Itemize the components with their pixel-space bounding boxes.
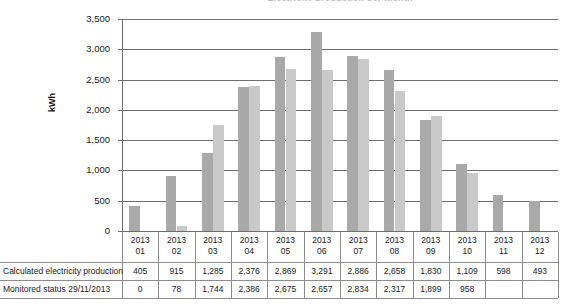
table-cell: 1,744 — [195, 280, 231, 298]
table-cell: 2,886 — [340, 262, 376, 280]
x-label-year: 2013 — [413, 235, 449, 246]
x-axis-label-09: 201309 — [413, 235, 449, 257]
table-cell: 2,658 — [376, 262, 412, 280]
bar-monitored-04 — [249, 86, 260, 231]
bar-calculated-07 — [347, 56, 358, 231]
x-label-year: 2013 — [267, 235, 303, 246]
bar-calculated-11 — [493, 195, 504, 231]
bar-monitored-09 — [431, 116, 442, 231]
table-vertical-rule — [558, 262, 559, 298]
bar-calculated-02 — [166, 176, 177, 231]
x-axis-label-02: 201302 — [158, 235, 194, 257]
x-axis-label-05: 201305 — [267, 235, 303, 257]
table-cell: 1,830 — [413, 262, 449, 280]
x-axis-label-06: 201306 — [304, 235, 340, 257]
x-axis-label-01: 201301 — [122, 235, 158, 257]
table-cell: 3,291 — [304, 262, 340, 280]
bar-calculated-10 — [456, 164, 467, 231]
table-cell: 915 — [158, 262, 194, 280]
bar-monitored-05 — [286, 69, 297, 231]
x-axis-category-band: 2013012013022013032013042013052013062013… — [122, 232, 558, 262]
chart-figure: Electricity production per month kWh 050… — [0, 0, 565, 308]
chart-title: Electricity production per month — [122, 0, 558, 1]
x-label-year: 2013 — [376, 235, 412, 246]
x-axis-label-03: 201303 — [195, 235, 231, 257]
table-row-label: Monitored status 29/11/2013 — [3, 280, 119, 298]
x-label-year: 2013 — [122, 235, 158, 246]
bars-layer — [122, 19, 558, 231]
y-tick-label: 1,500 — [86, 135, 110, 145]
table-cell: 1,109 — [449, 262, 485, 280]
x-label-year: 2013 — [522, 235, 558, 246]
table-cell: 2,834 — [340, 280, 376, 298]
y-tick-label: 3,500 — [86, 14, 110, 24]
x-axis-label-11: 201311 — [485, 235, 521, 257]
bar-calculated-01 — [129, 206, 140, 231]
x-label-month: 02 — [158, 246, 194, 257]
table-cell: 405 — [122, 262, 158, 280]
table-cell: 2,869 — [267, 262, 303, 280]
x-label-month: 12 — [522, 246, 558, 257]
y-tick-label: 3,000 — [86, 44, 110, 54]
x-axis-label-04: 201304 — [231, 235, 267, 257]
x-label-year: 2013 — [158, 235, 194, 246]
bar-calculated-05 — [275, 57, 286, 231]
x-label-month: 11 — [485, 246, 521, 257]
bar-calculated-09 — [420, 120, 431, 231]
x-axis-label-12: 201312 — [522, 235, 558, 257]
x-category-separator — [558, 232, 559, 262]
table-cell: 958 — [449, 280, 485, 298]
table-horizontal-rule — [0, 298, 558, 299]
y-tick-label: 2,000 — [86, 105, 110, 115]
x-label-year: 2013 — [195, 235, 231, 246]
x-label-month: 05 — [267, 246, 303, 257]
table-cell: 2,675 — [267, 280, 303, 298]
table-cell: 1,899 — [413, 280, 449, 298]
x-label-month: 06 — [304, 246, 340, 257]
x-label-month: 10 — [449, 246, 485, 257]
x-label-month: 01 — [122, 246, 158, 257]
x-label-year: 2013 — [449, 235, 485, 246]
x-label-month: 09 — [413, 246, 449, 257]
y-axis-title: kWh — [47, 93, 57, 112]
table-cell: 2,386 — [231, 280, 267, 298]
table-cell: 598 — [485, 262, 521, 280]
table-cell: 1,285 — [195, 262, 231, 280]
bar-monitored-08 — [395, 91, 406, 231]
bar-monitored-07 — [358, 59, 369, 231]
bar-monitored-10 — [467, 173, 478, 231]
x-label-month: 03 — [195, 246, 231, 257]
x-label-year: 2013 — [304, 235, 340, 246]
table-row-label: Calculated electricity production — [3, 262, 119, 280]
bar-monitored-02 — [177, 226, 188, 231]
y-tick-label: 2,500 — [86, 75, 110, 85]
bar-calculated-04 — [238, 87, 249, 231]
bar-calculated-06 — [311, 32, 322, 231]
table-cell: 2,376 — [231, 262, 267, 280]
x-label-year: 2013 — [485, 235, 521, 246]
table-cell: 78 — [158, 280, 194, 298]
bar-calculated-12 — [529, 201, 540, 231]
bar-calculated-03 — [202, 153, 213, 231]
y-tick-label: 0 — [105, 226, 110, 236]
x-label-month: 07 — [340, 246, 376, 257]
x-axis-label-10: 201310 — [449, 235, 485, 257]
x-axis-label-08: 201308 — [376, 235, 412, 257]
bar-monitored-06 — [322, 70, 333, 231]
x-label-month: 04 — [231, 246, 267, 257]
table-cell: 2,317 — [376, 280, 412, 298]
table-cell: 2,657 — [304, 280, 340, 298]
bar-monitored-03 — [213, 125, 224, 231]
x-label-year: 2013 — [231, 235, 267, 246]
x-label-month: 08 — [376, 246, 412, 257]
y-tick-label: 500 — [94, 196, 110, 206]
x-label-year: 2013 — [340, 235, 376, 246]
table-cell: 0 — [122, 280, 158, 298]
y-axis-tick-labels: 05001,0001,5002,0002,5003,0003,500 — [66, 19, 116, 231]
x-axis-label-07: 201307 — [340, 235, 376, 257]
data-table: Calculated electricity production4059151… — [0, 262, 558, 298]
y-tick-label: 1,000 — [86, 165, 110, 175]
table-cell: 493 — [522, 262, 558, 280]
bar-calculated-08 — [384, 70, 395, 231]
